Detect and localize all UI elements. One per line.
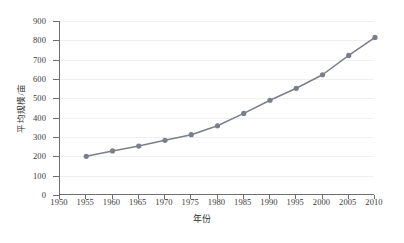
x-axis-title: 年份	[0, 212, 404, 225]
data-point-marker	[215, 123, 220, 128]
x-tick-mark	[269, 195, 270, 199]
x-tick-mark	[85, 195, 86, 199]
y-tick-label: 200	[0, 152, 46, 161]
series-polyline	[86, 37, 375, 156]
x-tick-mark	[322, 195, 323, 199]
y-axis-title: 平均规模/亩	[14, 83, 26, 132]
y-tick-label: 900	[0, 17, 46, 26]
x-tick-mark	[295, 195, 296, 199]
line-chart: 平均规模/亩 0100200300400500600700800900 1950…	[0, 0, 404, 243]
x-tick-mark	[164, 195, 165, 199]
data-point-marker	[294, 86, 299, 91]
plot-area	[59, 21, 374, 195]
data-point-marker	[346, 53, 351, 58]
data-point-marker	[110, 148, 115, 153]
x-tick-label: 2010	[354, 198, 394, 207]
data-point-marker	[162, 138, 167, 143]
y-tick-label: 400	[0, 113, 46, 122]
data-point-marker	[136, 143, 141, 148]
data-point-marker	[84, 154, 89, 159]
data-point-marker	[241, 111, 246, 116]
x-tick-mark	[112, 195, 113, 199]
y-tick-label: 300	[0, 133, 46, 142]
series-line	[60, 21, 375, 195]
x-tick-mark	[138, 195, 139, 199]
y-tick-label: 800	[0, 36, 46, 45]
x-tick-mark	[348, 195, 349, 199]
x-tick-mark	[59, 195, 60, 199]
data-point-marker	[372, 35, 377, 40]
x-tick-mark	[374, 195, 375, 199]
x-tick-mark	[190, 195, 191, 199]
y-tick-label: 100	[0, 171, 46, 180]
data-point-marker	[189, 132, 194, 137]
y-tick-label: 700	[0, 55, 46, 64]
data-point-marker	[267, 98, 272, 103]
data-point-marker	[320, 72, 325, 77]
x-tick-mark	[217, 195, 218, 199]
y-tick-label: 600	[0, 75, 46, 84]
x-tick-mark	[243, 195, 244, 199]
y-tick-label: 500	[0, 94, 46, 103]
